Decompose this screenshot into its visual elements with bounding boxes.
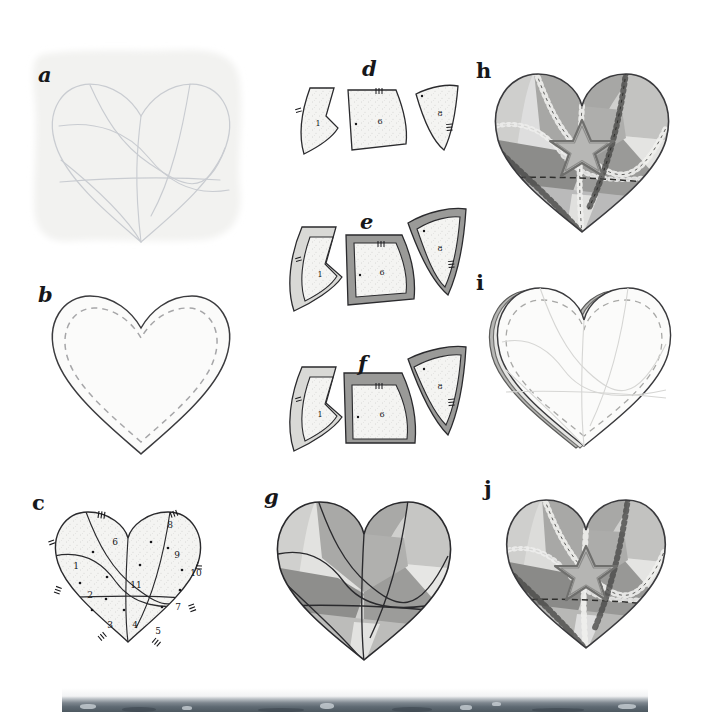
pattern-piece-8-with-allowance: 8 bbox=[408, 209, 466, 295]
template-heart-outline bbox=[56, 512, 201, 642]
panel-f-label: f bbox=[358, 353, 367, 374]
panel-i-artwork bbox=[476, 262, 690, 458]
panel-c-artwork: 1 2 3 4 5 6 7 8 9 10 11 bbox=[30, 470, 260, 655]
svg-text:6: 6 bbox=[379, 410, 384, 419]
panel-f-pieces-trimmed: 1 6 8 f bbox=[276, 345, 476, 470]
panel-a-artwork bbox=[24, 40, 254, 255]
panel-j-artwork bbox=[484, 468, 690, 658]
photo-strip-crop bbox=[62, 688, 648, 712]
pattern-piece-6-trimmed: 6 bbox=[344, 373, 415, 443]
svg-text:9: 9 bbox=[174, 550, 180, 560]
svg-text:2: 2 bbox=[87, 590, 93, 600]
svg-text:6: 6 bbox=[379, 268, 384, 277]
panel-e-artwork: 1 6 8 bbox=[276, 205, 476, 330]
pattern-piece-8: 8 bbox=[416, 85, 458, 150]
panel-b-label: b bbox=[38, 284, 53, 305]
panel-c-label: c bbox=[32, 492, 45, 513]
panel-e-label: e bbox=[360, 211, 373, 232]
panel-a-label: a bbox=[38, 64, 52, 85]
svg-text:6: 6 bbox=[112, 537, 118, 547]
svg-text:3: 3 bbox=[107, 620, 113, 630]
svg-text:1: 1 bbox=[317, 410, 322, 419]
panel-d-pieces: 1 6 8 d bbox=[276, 58, 476, 173]
pattern-piece-6: 6 bbox=[348, 88, 407, 150]
svg-text:8: 8 bbox=[437, 244, 442, 253]
svg-text:1: 1 bbox=[315, 119, 320, 128]
panel-e-pieces-allowance: 1 6 8 e bbox=[276, 205, 476, 330]
pattern-piece-8-trimmed: 8 bbox=[408, 347, 466, 436]
pattern-piece-1-with-allowance: 1 bbox=[290, 227, 342, 311]
svg-text:7: 7 bbox=[175, 602, 181, 612]
panel-h-label: h bbox=[476, 60, 491, 81]
svg-text:6: 6 bbox=[377, 117, 382, 126]
panel-h-artwork bbox=[476, 46, 690, 238]
svg-text:1: 1 bbox=[73, 561, 79, 571]
svg-text:8: 8 bbox=[437, 109, 442, 118]
panel-g-assembled-top: g bbox=[258, 472, 470, 667]
svg-text:4: 4 bbox=[132, 620, 138, 630]
svg-text:11: 11 bbox=[130, 580, 141, 590]
panel-c-numbered-template: 1 2 3 4 5 6 7 8 9 10 11 bbox=[30, 470, 260, 655]
panel-g-artwork bbox=[258, 472, 470, 667]
svg-text:5: 5 bbox=[155, 626, 161, 636]
panel-a-draft-sketch: a bbox=[24, 40, 254, 255]
pattern-piece-1: 1 bbox=[295, 88, 338, 154]
panel-b-outline: b bbox=[24, 262, 254, 462]
panel-j-finished-heart: j bbox=[484, 468, 690, 658]
panel-h-embellished-top: h bbox=[476, 46, 690, 238]
svg-text:8: 8 bbox=[437, 382, 442, 391]
svg-text:8: 8 bbox=[167, 520, 173, 530]
pattern-piece-6-with-allowance: 6 bbox=[346, 235, 415, 305]
panel-i-label: i bbox=[476, 272, 484, 293]
svg-text:10: 10 bbox=[190, 568, 202, 578]
illustration-sheet: a b bbox=[0, 0, 704, 712]
panel-i-layered-backing: i bbox=[476, 262, 690, 458]
panel-d-label: d bbox=[362, 58, 377, 79]
panel-g-label: g bbox=[264, 486, 279, 507]
heart-cut-line bbox=[52, 296, 229, 454]
patch-tones bbox=[258, 472, 470, 667]
panel-b-artwork bbox=[24, 262, 254, 462]
pattern-piece-1-trimmed: 1 bbox=[290, 367, 342, 451]
svg-text:1: 1 bbox=[317, 270, 322, 279]
panel-f-artwork: 1 6 8 bbox=[276, 345, 476, 470]
panel-j-label: j bbox=[484, 478, 492, 499]
